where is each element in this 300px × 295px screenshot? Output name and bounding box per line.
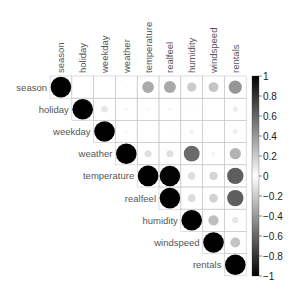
correlation-circle	[208, 215, 218, 225]
correlation-circle	[125, 130, 129, 134]
correlation-circle	[209, 172, 217, 180]
column-label-rentals: rentals	[230, 44, 241, 73]
column-label-season: season	[55, 42, 66, 73]
row-label-season: season	[16, 82, 47, 93]
colorbar-tick-label: 1	[263, 71, 269, 82]
correlation-circle	[72, 99, 93, 120]
correlation-circle	[166, 150, 173, 157]
column-label-realfeel: realfeel	[164, 42, 175, 73]
column-label-temperature: temperature	[143, 22, 154, 73]
column-labels: seasonholidayweekdayweathertemperaturere…	[55, 22, 240, 74]
row-label-weekday: weekday	[52, 126, 91, 137]
row-label-rentals: rentals	[193, 259, 222, 270]
correlation-circle	[230, 238, 240, 248]
colorbar-tick-label: −0.8	[263, 251, 283, 262]
row-label-holiday: holiday	[39, 104, 69, 115]
colorbar-legend: 10.80.60.40.20−0.2−0.4−0.6−0.8−1	[252, 71, 283, 282]
colorbar-gradient	[252, 76, 259, 276]
column-label-weekday: weekday	[99, 35, 110, 74]
correlation-circle	[101, 106, 108, 113]
correlation-circle	[82, 86, 84, 88]
correlation-circle	[125, 108, 129, 112]
correlation-circle	[230, 148, 241, 159]
correlation-circle	[229, 81, 242, 94]
colorbar-tick-label: −0.4	[263, 211, 283, 222]
correlation-circle	[94, 121, 115, 142]
correlation-circle	[164, 81, 176, 93]
column-label-weather: weather	[121, 39, 132, 74]
correlation-circle	[209, 194, 218, 203]
correlation-circle	[160, 188, 181, 209]
correlation-circle	[189, 129, 194, 134]
colorbar-tick-label: 0.6	[263, 111, 277, 122]
row-label-windspeed: windspeed	[153, 237, 199, 248]
correlation-circle	[169, 130, 171, 132]
correlation-circle	[142, 81, 154, 93]
colorbar-tick-label: 0.4	[263, 131, 277, 142]
correlation-circle	[211, 152, 215, 156]
correlation-circle	[184, 146, 200, 162]
correlation-circle	[190, 108, 193, 111]
correlation-circle	[160, 166, 181, 187]
colorbar-tick-label: 0.8	[263, 91, 277, 102]
correlation-circle	[227, 190, 243, 206]
grid-cell	[94, 76, 116, 98]
correlation-circle	[125, 86, 128, 89]
colorbar-tick-label: −1	[263, 271, 275, 282]
correlation-circle	[232, 217, 239, 224]
correlation-circle	[138, 166, 159, 187]
correlation-circle	[227, 168, 243, 184]
correlation-circle	[116, 143, 137, 164]
correlation-circle	[209, 82, 219, 92]
correlation-circle	[146, 108, 150, 112]
correlation-circle	[203, 232, 224, 253]
row-label-temperature: temperature	[83, 170, 134, 181]
correlation-circle	[188, 194, 196, 202]
correlation-circle	[212, 130, 214, 132]
column-label-humidity: humidity	[186, 37, 197, 73]
correlation-circle	[225, 254, 246, 275]
correlation-circle	[212, 108, 214, 110]
correlation-circle	[51, 77, 72, 98]
row-label-weather: weather	[78, 148, 113, 159]
correlation-plot: seasonholidayweekdayweathertemperaturere…	[0, 0, 300, 295]
colorbar-tick-label: 0	[263, 171, 269, 182]
correlation-circle	[233, 107, 238, 112]
correlation-circle	[233, 129, 238, 134]
row-label-realfeel: realfeel	[125, 193, 156, 204]
column-label-windspeed: windspeed	[208, 28, 219, 74]
correlation-circle	[188, 172, 195, 179]
colorbar-tick-label: −0.6	[263, 231, 283, 242]
row-label-humidity: humidity	[142, 215, 178, 226]
column-label-holiday: holiday	[77, 43, 88, 73]
correlation-circle	[187, 82, 196, 91]
correlation-circle	[168, 108, 172, 112]
colorbar-tick-label: −0.2	[263, 191, 283, 202]
grid-cell	[137, 120, 159, 142]
colorbar-tick-label: 0.2	[263, 151, 277, 162]
correlation-circle	[145, 150, 152, 157]
correlation-circle	[181, 210, 202, 231]
correlation-circles	[51, 77, 246, 275]
